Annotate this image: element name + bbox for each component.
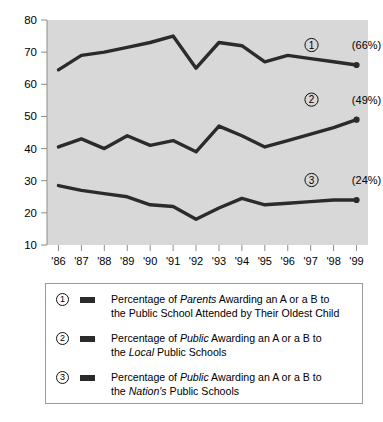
legend-label-3-line-1-post: Awarding an A or a B to <box>209 371 322 383</box>
y-tick-label: 80 <box>24 14 37 26</box>
legend-label-1-line-2: the Public School Attended by Their Olde… <box>111 306 339 320</box>
legend-label-1-line-2-pre: the Public School Attended by Their Olde… <box>111 307 339 319</box>
x-tick-label: '94 <box>235 255 249 267</box>
legend-label-1: Percentage of Parents Awarding an A or a… <box>111 292 339 320</box>
y-tick-label: 40 <box>24 143 37 155</box>
x-tick-label: '99 <box>349 255 363 267</box>
legend-label-3-line-1-em: Public <box>180 371 209 383</box>
line-chart-figure: 1020304050607080 '86'87'88'89'90'91'92'9… <box>0 0 383 422</box>
y-tick-label: 70 <box>24 46 37 58</box>
x-tick-label: '86 <box>51 255 65 267</box>
x-tick-label: '91 <box>166 255 180 267</box>
series-endpoint-1 <box>353 62 359 68</box>
legend-label-2-line-2: the Local Public Schools <box>111 345 322 359</box>
x-tick-label: '88 <box>97 255 111 267</box>
x-tick-label: '89 <box>120 255 134 267</box>
y-tick-label: 20 <box>24 207 37 219</box>
x-tick-label: '98 <box>326 255 340 267</box>
legend-label-1-line-1-pre: Percentage of <box>111 293 180 305</box>
series-endpoint-3 <box>353 197 359 203</box>
legend-label-3-line-2-em: Nation's <box>129 385 167 397</box>
y-tick-label: 30 <box>24 175 37 187</box>
legend-label-3-line-2-post: Public Schools <box>167 385 239 397</box>
x-tick-label: '90 <box>143 255 157 267</box>
legend-item-3: 3 Percentage of Public Awarding an A or … <box>56 370 354 398</box>
series-marker-number-1: 1 <box>309 40 315 51</box>
legend-label-1-line-1-post: Awarding an A or a B to <box>216 293 329 305</box>
x-tick-label: '93 <box>212 255 226 267</box>
legend-label-1-line-1: Percentage of Parents Awarding an A or a… <box>111 292 339 306</box>
x-tick-label: '87 <box>74 255 88 267</box>
legend: 1 Percentage of Parents Awarding an A or… <box>45 283 363 404</box>
legend-label-3: Percentage of Public Awarding an A or a … <box>111 370 322 398</box>
chart-svg: 1020304050607080 '86'87'88'89'90'91'92'9… <box>0 0 383 276</box>
legend-label-2-line-1-pre: Percentage of <box>111 332 180 344</box>
legend-color-swatch-3 <box>80 375 95 381</box>
legend-label-2-line-2-em: Local <box>129 346 154 358</box>
legend-label-2-line-2-post: Public Schools <box>154 346 226 358</box>
x-axis: '86'87'88'89'90'91'92'93'94'95'96'97'98'… <box>51 245 363 267</box>
series-endpoint-2 <box>353 117 359 123</box>
series-marker-number-3: 3 <box>309 175 315 186</box>
legend-label-3-line-1: Percentage of Public Awarding an A or a … <box>111 370 322 384</box>
legend-label-2-line-1-em: Public <box>180 332 209 344</box>
legend-label-2-line-1-post: Awarding an A or a B to <box>209 332 322 344</box>
legend-label-1-line-1-em: Parents <box>180 293 217 305</box>
x-tick-label: '97 <box>304 255 318 267</box>
x-tick-label: '92 <box>189 255 203 267</box>
legend-label-2-line-2-pre: the <box>111 346 129 358</box>
series-end-label-3: (24%) <box>352 174 381 186</box>
y-axis: 1020304050607080 <box>24 14 47 251</box>
legend-color-swatch-2 <box>80 336 95 342</box>
legend-marker-number-2: 2 <box>56 332 69 345</box>
legend-label-3-line-2: the Nation's Public Schools <box>111 384 322 398</box>
legend-color-swatch-1 <box>80 297 95 303</box>
y-tick-label: 50 <box>24 110 37 122</box>
legend-label-2: Percentage of Public Awarding an A or a … <box>111 331 322 359</box>
legend-label-3-line-2-pre: the <box>111 385 129 397</box>
legend-item-1: 1 Percentage of Parents Awarding an A or… <box>56 292 354 320</box>
plot-area-container: 1020304050607080 '86'87'88'89'90'91'92'9… <box>0 0 383 276</box>
legend-marker-number-3: 3 <box>56 371 69 384</box>
legend-marker-number-1: 1 <box>56 293 69 306</box>
x-tick-label: '96 <box>281 255 295 267</box>
series-marker-number-2: 2 <box>309 94 315 105</box>
legend-label-3-line-1-pre: Percentage of <box>111 371 180 383</box>
legend-item-2: 2 Percentage of Public Awarding an A or … <box>56 331 354 359</box>
y-tick-label: 10 <box>24 239 37 251</box>
series-end-label-2: (49%) <box>352 94 381 106</box>
legend-label-2-line-1: Percentage of Public Awarding an A or a … <box>111 331 322 345</box>
x-tick-label: '95 <box>258 255 272 267</box>
y-tick-label: 60 <box>24 78 37 90</box>
series-end-label-1: (66%) <box>352 39 381 51</box>
